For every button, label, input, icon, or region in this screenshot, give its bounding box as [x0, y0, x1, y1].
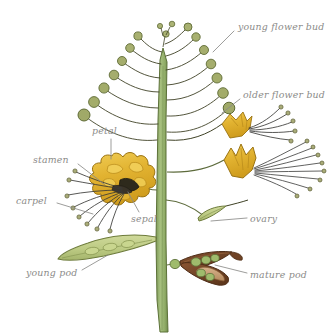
label-young-flower-bud: young flower bud [238, 22, 324, 31]
label-mature-pod: mature pod [250, 270, 307, 279]
label-petal: petal [92, 126, 117, 135]
plant-illustration [0, 0, 332, 335]
label-young-pod: young pod [26, 268, 77, 277]
main-stem [156, 48, 168, 332]
botanical-diagram: young flower bud older flower bud petal … [0, 0, 332, 335]
leader-young-flower-bud [213, 31, 234, 52]
mature-pod [167, 251, 242, 285]
ovary-structure [166, 200, 248, 221]
flower-lower-right [167, 139, 326, 198]
label-stamen: stamen [33, 155, 69, 164]
label-carpel: carpel [16, 196, 47, 205]
leader-carpel [57, 203, 93, 214]
label-older-flower-bud: older flower bud [243, 90, 325, 99]
young-flower-buds [78, 21, 235, 121]
label-ovary: ovary [250, 214, 277, 223]
label-sepal: sepal [131, 214, 157, 223]
young-pod [58, 235, 157, 260]
leader-ovary [211, 218, 247, 221]
